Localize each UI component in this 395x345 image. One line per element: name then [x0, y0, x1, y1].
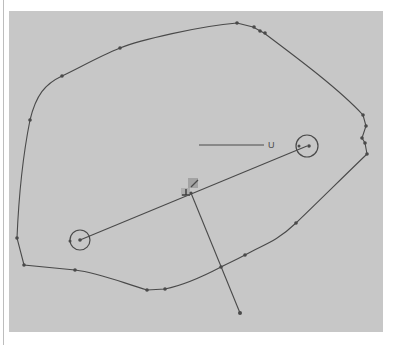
pivot-marker[interactable] — [181, 178, 198, 196]
left-handle[interactable] — [69, 230, 91, 250]
spline-outline[interactable] — [17, 23, 367, 290]
main-segment[interactable] — [80, 146, 307, 240]
cross-segment[interactable] — [191, 193, 240, 313]
u-axis-label: U — [268, 140, 275, 150]
cross-end-point[interactable] — [238, 311, 242, 315]
outline-control-points[interactable] — [15, 21, 369, 292]
sketch-canvas[interactable]: U — [0, 0, 395, 345]
